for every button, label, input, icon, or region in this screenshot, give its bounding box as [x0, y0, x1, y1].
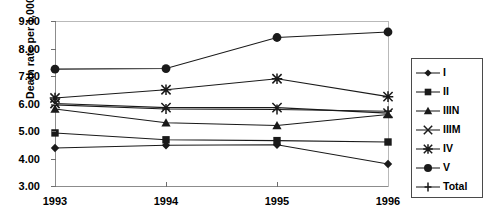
legend-marker-diamond-icon: [415, 64, 441, 82]
marker-circle: [273, 33, 282, 42]
y-axis-tick: [51, 104, 56, 105]
marker-circle: [51, 65, 60, 74]
marker-square: [162, 136, 169, 143]
y-axis-tick: [51, 21, 56, 22]
x-tick-label: 1994: [136, 196, 196, 207]
legend-marker-asterisk-icon: [415, 140, 441, 158]
marker-asterisk: [161, 84, 172, 95]
x-tick-label: 1996: [358, 196, 418, 207]
marker-plus: [425, 182, 432, 191]
legend-label: II: [441, 86, 449, 97]
legend-label: Total: [441, 181, 467, 192]
marker-asterisk: [383, 91, 394, 102]
y-tick-label: 6.00: [2, 99, 40, 110]
legend: IIIIIINIIIMIVVTotal: [411, 58, 483, 198]
marker-circle: [424, 164, 432, 172]
marker-circle: [384, 28, 393, 37]
marker-square: [384, 138, 391, 145]
legend-marker-triangle-icon: [415, 102, 441, 120]
y-axis-tick-labels: 9.008.007.006.005.004.003.00: [0, 0, 40, 221]
plot-area: [55, 21, 388, 186]
series-i: [51, 141, 392, 169]
marker-diamond: [424, 69, 431, 76]
y-tick-label: 7.00: [2, 71, 40, 82]
legend-marker-square-icon: [415, 83, 441, 101]
marker-asterisk: [423, 144, 433, 154]
x-tick-label: 1995: [247, 196, 307, 207]
legend-item-iiin[interactable]: IIIN: [412, 101, 482, 120]
y-tick-label: 8.00: [2, 44, 40, 55]
y-axis-tick: [51, 159, 56, 160]
death-rate-line-chart: Death rate per 1,000 9.008.007.006.005.0…: [0, 0, 488, 221]
marker-diamond: [51, 144, 59, 152]
series-iv: [50, 73, 394, 103]
legend-item-v[interactable]: V: [412, 158, 482, 177]
legend-marker-circle-icon: [415, 159, 441, 177]
marker-circle: [162, 64, 171, 73]
legend-item-total[interactable]: Total: [412, 177, 482, 196]
legend-item-ii[interactable]: II: [412, 82, 482, 101]
legend-item-i[interactable]: I: [412, 63, 482, 82]
series-ii: [51, 129, 391, 145]
legend-label: IIIM: [441, 124, 461, 135]
legend-label: I: [441, 67, 446, 78]
legend-item-iv[interactable]: IV: [412, 139, 482, 158]
series-v: [51, 28, 393, 74]
legend-marker-cross-x-icon: [415, 121, 441, 139]
legend-label: V: [441, 162, 450, 173]
x-axis-tick: [277, 182, 278, 187]
y-tick-label: 4.00: [2, 154, 40, 165]
y-axis-tick: [51, 186, 56, 187]
x-tick-label: 1993: [25, 196, 85, 207]
marker-asterisk: [272, 73, 283, 84]
marker-square: [425, 88, 432, 95]
marker-diamond: [384, 160, 392, 168]
legend-marker-plus-icon: [415, 178, 441, 196]
marker-square: [273, 137, 280, 144]
legend-item-iiim[interactable]: IIIM: [412, 120, 482, 139]
y-axis-tick: [51, 49, 56, 50]
x-axis-tick: [166, 182, 167, 187]
y-tick-label: 5.00: [2, 126, 40, 137]
legend-label: IV: [441, 143, 453, 154]
y-axis-tick: [51, 76, 56, 77]
series-lines: [55, 21, 389, 187]
y-axis-tick: [51, 131, 56, 132]
legend-label: IIIN: [441, 105, 459, 116]
y-tick-label: 3.00: [2, 181, 40, 192]
y-tick-label: 9.00: [2, 16, 40, 27]
